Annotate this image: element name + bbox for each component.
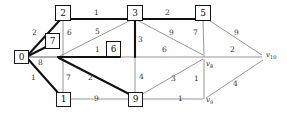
node-3[interactable]: 3 — [127, 5, 143, 21]
edge-weight-0-2: 2 — [32, 28, 37, 37]
node-6-label: 6 — [111, 45, 117, 54]
node-2-label: 2 — [60, 9, 66, 18]
node-9[interactable]: 9 — [128, 92, 143, 107]
edge-weight-3-7: 5 — [95, 27, 100, 36]
bold-edges — [28, 19, 203, 96]
edge-weight-v9-v10: 4 — [233, 79, 238, 88]
node-2[interactable]: 2 — [55, 5, 71, 21]
graph-edges-canvas — [0, 0, 287, 113]
node-6[interactable]: 6 — [106, 41, 121, 57]
edge-weight-0-1: 1 — [31, 73, 36, 82]
v10-subscript: 10 — [270, 54, 276, 60]
node-1-label: 1 — [61, 95, 67, 104]
edge-weight-2-3: 1 — [94, 8, 99, 17]
node-7-label: 7 — [50, 37, 56, 46]
edge-weight-v8-v9: 1 — [194, 74, 199, 83]
v8-subscript: 8 — [210, 63, 213, 69]
edge-weight-9-v8: 3 — [171, 74, 176, 83]
edge-weight-6-v8: 6 — [162, 45, 167, 54]
edge-weight-5-v10: 9 — [234, 28, 239, 37]
edge-weight-6-9: 2 — [88, 73, 93, 82]
node-1[interactable]: 1 — [56, 92, 71, 107]
edge-weight-3-9: 3 — [138, 35, 143, 44]
thin-edges — [28, 19, 263, 99]
edge-weight-9-v9: 1 — [178, 94, 183, 103]
node-v9-label: v9 — [206, 96, 213, 105]
edge-weight-6-1: 7 — [66, 73, 71, 82]
node-0[interactable]: 0 — [14, 50, 29, 64]
edge-weight-5-v8: 7 — [193, 28, 198, 37]
v9-subscript: 9 — [210, 99, 213, 105]
node-7[interactable]: 7 — [45, 33, 60, 49]
edge-weight-3-5: 2 — [165, 8, 170, 17]
edge-weight-1-9: 9 — [94, 94, 99, 103]
edge-weight-6-v10: 2 — [230, 45, 235, 54]
edge-3-v8 — [137, 20, 203, 55]
edge-weight-3-v8: 9 — [169, 28, 174, 37]
edge-weight-2-7: 6 — [67, 28, 72, 37]
edge-weight-3-6: 1 — [95, 45, 100, 54]
weighted-graph-diagram: 0 2 3 5 7 6 1 9 v8 v9 v10 2 8 1 1 6 5 1 … — [0, 0, 287, 113]
node-5[interactable]: 5 — [195, 5, 211, 21]
node-0-label: 0 — [19, 53, 25, 62]
node-v8-label: v8 — [206, 60, 213, 69]
node-v10-label: v10 — [266, 51, 276, 60]
edge-5-v8 — [203, 20, 204, 57]
node-3-label: 3 — [132, 9, 138, 18]
node-9-label: 9 — [133, 95, 139, 104]
edge-weight-9-3b: 4 — [139, 72, 144, 81]
node-5-label: 5 — [200, 9, 206, 18]
edge-weight-0-6: 8 — [38, 58, 43, 67]
